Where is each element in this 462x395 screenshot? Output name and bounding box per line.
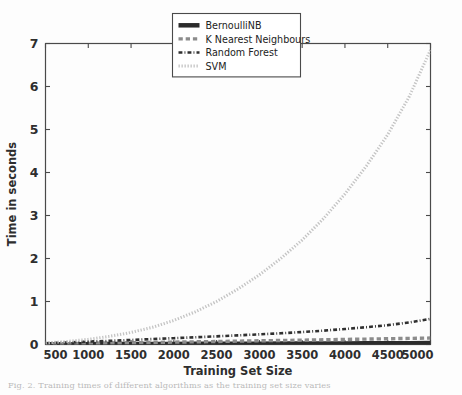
y-tick-label: 3 [30,208,39,223]
x-tick-label: 2500 [201,348,233,362]
y-tick-label: 1 [30,294,39,309]
figure-caption: Fig. 2. Training times of different algo… [0,381,462,395]
figure-container: 5001000150020002500300035004000450050000… [0,0,462,395]
y-tick-label: 0 [30,337,39,352]
x-tick-label: 5000 [401,348,433,362]
x-tick-label: 2000 [158,348,190,362]
plot-frame [46,44,431,345]
y-tick-label: 7 [30,36,39,51]
legend-label-k-nearest-neighbours: K Nearest Neighbours [206,34,311,45]
y-tick-label: 6 [30,79,39,94]
x-tick-label: 4500 [372,348,404,362]
x-tick-label: 500 [44,348,68,362]
x-axis-label: Training Set Size [184,364,293,378]
legend-label-bernoullinb: BernoulliNB [206,20,262,31]
figure-caption-text: Fig. 2. Training times of different algo… [8,381,331,390]
x-tick-label: 3000 [243,348,275,362]
x-tick-label: 1500 [115,348,147,362]
chart-canvas: 5001000150020002500300035004000450050000… [0,0,462,395]
x-tick-label: 4000 [329,348,361,362]
series-group [46,50,431,344]
x-tick-label: 1000 [72,348,104,362]
y-axis-label: Time in seconds [5,142,19,246]
y-tick-label: 4 [30,165,39,180]
series-line-svm [46,50,431,343]
y-tick-label: 5 [30,122,39,137]
legend-label-random-forest: Random Forest [206,47,278,58]
y-tick-label: 2 [30,251,39,266]
x-tick-label: 3500 [286,348,318,362]
legend-label-svm: SVM [206,61,227,72]
